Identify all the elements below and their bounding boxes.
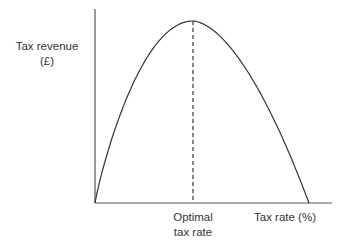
laffer-curve: [95, 21, 309, 203]
optimal-rate-label-line1: Optimal: [173, 211, 213, 223]
y-axis-label-line1: Tax revenue: [16, 40, 79, 52]
x-axis-label: Tax rate (%): [254, 211, 316, 223]
optimal-rate-label-line2: tax rate: [174, 226, 212, 238]
laffer-chart: Tax revenue (£) Optimal tax rate Tax rat…: [0, 0, 348, 240]
y-axis-label-line2: (£): [40, 55, 54, 67]
